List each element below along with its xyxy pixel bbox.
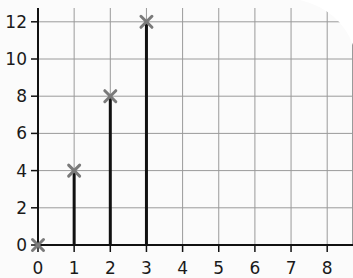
x-tick-label: 7 (286, 258, 297, 278)
y-tick-label: 0 (16, 235, 27, 255)
stem-chart: 012345678 024681012 (0, 0, 353, 278)
x-tick-label: 6 (249, 258, 260, 278)
x-tick-label: 5 (213, 258, 224, 278)
y-tick-label: 12 (5, 12, 27, 32)
y-tick-label: 4 (16, 161, 27, 181)
y-tick-label: 6 (16, 123, 27, 143)
x-tick-label: 8 (322, 258, 333, 278)
x-tick-label: 4 (177, 258, 188, 278)
y-tick-label: 10 (5, 49, 27, 69)
x-tick-label: 3 (141, 258, 152, 278)
x-tick-label: 1 (69, 258, 80, 278)
x-tick-labels: 012345678 (33, 258, 333, 278)
y-tick-label: 8 (16, 86, 27, 106)
y-tick-label: 2 (16, 198, 27, 218)
paper-background (0, 0, 353, 278)
x-tick-label: 2 (105, 258, 116, 278)
x-tick-label: 0 (33, 258, 44, 278)
